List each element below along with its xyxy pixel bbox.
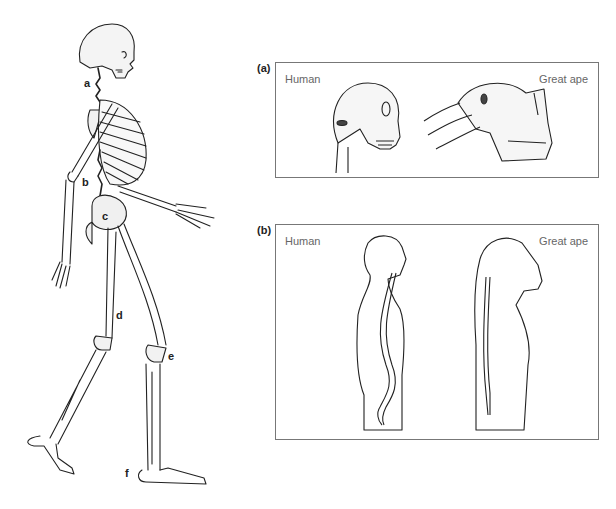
panel-b-tag: (b) (257, 224, 271, 236)
skeleton-label-d: d (116, 309, 123, 321)
skeleton-label-c: c (102, 210, 108, 222)
panel-a-skull-comparison: Human Great ape (275, 62, 599, 178)
skull-comparison-drawing (276, 63, 598, 177)
skeleton-label-b: b (82, 176, 89, 188)
skeleton-label-f: f (125, 467, 129, 479)
skeleton-label-e: e (168, 350, 174, 362)
skeleton-label-a: a (84, 77, 90, 89)
panel-a-tag: (a) (257, 62, 270, 74)
spine-silhouette-drawing (276, 225, 598, 439)
walking-skeleton-illustration (0, 0, 250, 509)
panel-b-posture-comparison: Human Great ape (275, 224, 599, 440)
